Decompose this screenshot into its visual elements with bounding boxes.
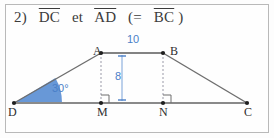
point-label-m: M <box>97 106 108 118</box>
point-label-b: B <box>170 45 178 57</box>
side-bc <box>163 53 247 103</box>
figure-frame: 2) DC et AD (= BC ) <box>0 0 274 138</box>
measurement-label-top-side: 10 <box>127 34 139 45</box>
measurement-label-angle: 30° <box>52 83 69 94</box>
measurement-label-height: 8 <box>115 71 121 82</box>
geometry-diagram <box>0 0 274 138</box>
point-label-d: D <box>8 106 17 118</box>
point-label-a: A <box>93 45 102 57</box>
point-label-c: C <box>244 106 252 118</box>
point-label-n: N <box>159 106 168 118</box>
vertex-dot-b <box>161 51 165 55</box>
